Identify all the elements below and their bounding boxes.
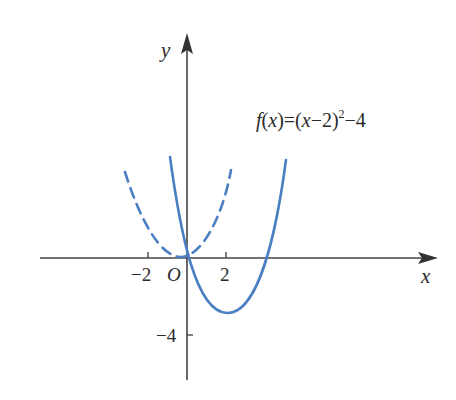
y-axis-label: y — [161, 40, 170, 61]
tick-label-x-pos2: 2 — [220, 265, 230, 284]
tick-label-x-neg2: −2 — [131, 265, 151, 284]
graph-canvas — [0, 0, 456, 400]
formula-minus2: −2) — [311, 109, 339, 131]
formula-tail: −4 — [345, 109, 366, 131]
formula-x: x — [268, 109, 277, 131]
x-axis-label: x — [421, 266, 430, 287]
formula-arg: (x) — [262, 109, 284, 131]
function-formula: f(x)=(x−2)2−4 — [256, 108, 366, 130]
tick-label-y-neg4: −4 — [156, 326, 176, 345]
function-graph: y x O −2 2 −4 f(x)=(x−2)2−4 — [0, 0, 456, 400]
formula-eq: =( — [284, 109, 302, 131]
formula-x2: x — [302, 109, 311, 131]
origin-label: O — [167, 265, 181, 284]
